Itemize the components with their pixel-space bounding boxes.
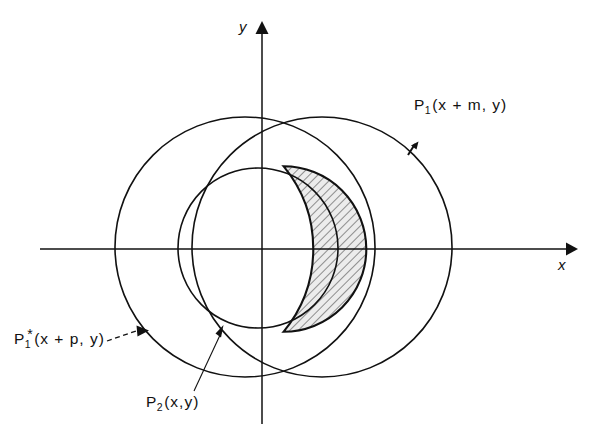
label-p2-base: P <box>146 393 157 410</box>
label-p1-star-base: P <box>14 330 25 347</box>
axis-y <box>256 21 269 424</box>
figure-canvas: P1(x + m, y) P1*(x + p, y) P2(x,y) y x <box>0 0 593 446</box>
label-p1: P1(x + m, y) <box>414 96 507 116</box>
axis-label-y: y <box>239 18 247 35</box>
diagram-svg <box>0 0 593 446</box>
pointer-p1 <box>408 142 419 156</box>
axis-label-x: x <box>558 256 566 273</box>
label-p1-star: P1*(x + p, y) <box>14 326 105 350</box>
label-p2-args: (x,y) <box>164 393 199 410</box>
label-p1-star-args: (x + p, y) <box>34 330 105 347</box>
axis-x <box>40 243 578 256</box>
label-p2: P2(x,y) <box>146 393 199 413</box>
label-p1-base: P <box>414 96 425 113</box>
pointer-p2 <box>194 325 224 391</box>
label-p1-args: (x + m, y) <box>432 96 507 113</box>
